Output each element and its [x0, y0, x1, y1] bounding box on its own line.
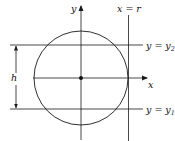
y-axis-label: y — [70, 3, 77, 14]
y-equals-y1-label: y = y1 — [145, 104, 175, 117]
x-equals-r-label: x = r — [117, 3, 142, 14]
y-equals-y2-label: y = y2 — [145, 40, 175, 53]
x-axis-label: x — [148, 79, 154, 90]
h-label: h — [11, 72, 17, 83]
center-point — [79, 76, 83, 80]
circle-diagram: y x x = r y = y2 y = y1 h — [0, 0, 175, 141]
